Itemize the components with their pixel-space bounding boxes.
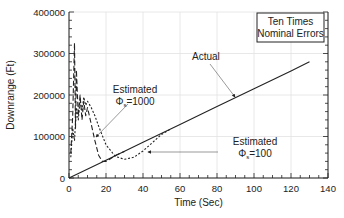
x-tick-label: 80 <box>212 183 223 194</box>
x-tick-label: 120 <box>283 183 299 194</box>
x-tick-label: 40 <box>138 183 149 194</box>
annotation-phi100-line2: Φs=100 <box>238 148 272 160</box>
series-layer <box>69 43 310 178</box>
y-tick-label: 100000 <box>33 131 65 142</box>
chart-root: 0204060801001201400100000200000300000400… <box>0 0 344 218</box>
annotations: Ten TimesNominal ErrorsActualEstimatedΦs… <box>96 13 324 160</box>
y-tick-label: 200000 <box>33 90 65 101</box>
annotation-phi1000-line1: Estimated <box>113 84 157 95</box>
x-tick-label: 0 <box>66 183 71 194</box>
x-tick-label: 60 <box>175 183 186 194</box>
x-axis-title: Time (Sec) <box>174 197 223 208</box>
annotation-actual: Actual <box>192 51 220 62</box>
annotation-actual-arrow <box>210 64 235 97</box>
series-actual <box>69 62 310 178</box>
x-tick-label: 20 <box>101 183 112 194</box>
y-tick-label: 0 <box>60 173 65 184</box>
y-axis-title: Downrange (Ft) <box>5 60 16 129</box>
y-tick-label: 400000 <box>33 7 65 18</box>
annotation-phi1000-line2: Φs=1000 <box>115 96 155 108</box>
annotation-phi100-line1: Estimated <box>233 136 277 147</box>
x-tick-label: 100 <box>246 183 262 194</box>
annotation-phi1000-arrow <box>96 104 128 137</box>
legend-line2: Nominal Errors <box>257 28 324 39</box>
legend-line1: Ten Times <box>268 16 314 27</box>
y-tick-label: 300000 <box>33 48 65 59</box>
x-tick-label: 140 <box>320 183 336 194</box>
